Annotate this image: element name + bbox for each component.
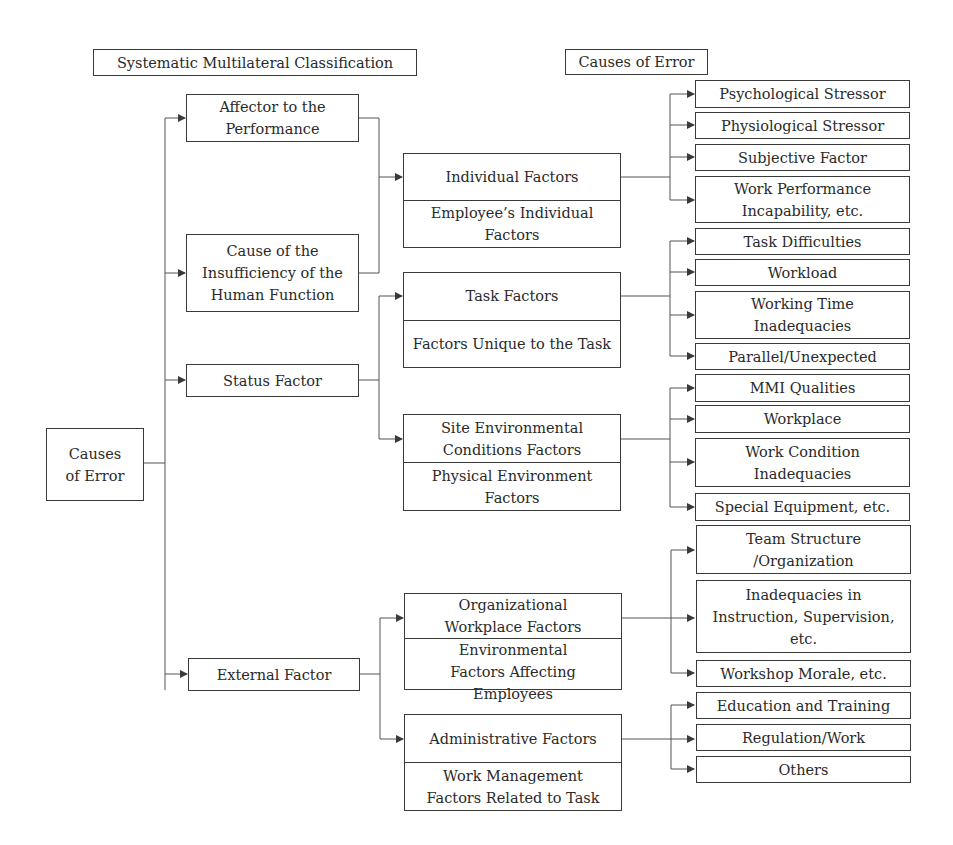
group-title: Site Environmental Conditions Factors bbox=[404, 415, 620, 462]
cause-special-equipment: Special Equipment, etc. bbox=[695, 493, 910, 521]
group-site-environmental: Site Environmental Conditions Factors Ph… bbox=[403, 414, 621, 511]
node-label: Cause of the Insufficiency of the Human … bbox=[202, 240, 343, 306]
group-subtitle: Factors Unique to the Task bbox=[404, 320, 620, 368]
node-status-factor: Status Factor bbox=[186, 364, 359, 397]
cause-psychological-stressor: Psychological Stressor bbox=[695, 80, 910, 108]
group-title: Individual Factors bbox=[404, 154, 620, 200]
group-subtitle: Environmental Factors Affecting Employee… bbox=[405, 638, 621, 705]
cause-label: Work Performance Incapability, etc. bbox=[734, 178, 871, 222]
cause-label: Education and Training bbox=[717, 695, 890, 717]
cause-label: Inadequacies in Instruction, Supervision… bbox=[712, 584, 894, 650]
node-label: Affector to the Performance bbox=[219, 96, 325, 140]
cause-label: Regulation/Work bbox=[742, 727, 865, 749]
node-label: External Factor bbox=[217, 664, 332, 686]
cause-workshop-morale: Workshop Morale, etc. bbox=[696, 660, 911, 687]
node-external-factor: External Factor bbox=[188, 658, 360, 691]
group-subtitle: Employee’s Individual Factors bbox=[404, 200, 620, 247]
cause-label: Workload bbox=[768, 262, 838, 284]
cause-label: Workplace bbox=[764, 408, 842, 430]
cause-regulation-work: Regulation/Work bbox=[696, 724, 911, 751]
header-right-label: Causes of Error bbox=[579, 51, 695, 73]
cause-workplace: Workplace bbox=[695, 405, 910, 433]
cause-task-difficulties: Task Difficulties bbox=[695, 228, 910, 255]
group-title: Administrative Factors bbox=[405, 715, 621, 762]
root-causes-of-error: Causes of Error bbox=[46, 428, 144, 501]
cause-label: Psychological Stressor bbox=[719, 83, 885, 105]
cause-label: Workshop Morale, etc. bbox=[720, 663, 887, 685]
cause-label: Others bbox=[778, 759, 828, 781]
group-title: Organizational Workplace Factors bbox=[405, 594, 621, 638]
header-left-label: Systematic Multilateral Classification bbox=[117, 52, 393, 74]
cause-inadequacies-instruction: Inadequacies in Instruction, Supervision… bbox=[696, 580, 911, 653]
group-task: Task Factors Factors Unique to the Task bbox=[403, 272, 621, 368]
cause-education-training: Education and Training bbox=[696, 692, 911, 719]
node-insufficiency: Cause of the Insufficiency of the Human … bbox=[186, 234, 359, 312]
cause-label: Special Equipment, etc. bbox=[715, 496, 890, 518]
cause-subjective-factor: Subjective Factor bbox=[695, 144, 910, 171]
root-label: Causes of Error bbox=[66, 443, 125, 487]
cause-label: Team Structure /Organization bbox=[746, 528, 861, 572]
group-title: Task Factors bbox=[404, 273, 620, 320]
cause-team-structure: Team Structure /Organization bbox=[696, 525, 911, 574]
cause-label: Work Condition Inadequacies bbox=[745, 441, 860, 485]
header-systematic-classification: Systematic Multilateral Classification bbox=[93, 49, 417, 76]
header-causes-of-error: Causes of Error bbox=[565, 49, 708, 75]
cause-working-time-inadequacies: Working Time Inadequacies bbox=[695, 291, 910, 339]
cause-physiological-stressor: Physiological Stressor bbox=[695, 112, 910, 139]
group-subtitle: Work Management Factors Related to Task bbox=[405, 762, 621, 810]
cause-label: MMI Qualities bbox=[750, 377, 856, 399]
cause-parallel-unexpected: Parallel/Unexpected bbox=[695, 343, 910, 370]
cause-label: Physiological Stressor bbox=[721, 115, 884, 137]
cause-label: Task Difficulties bbox=[744, 231, 862, 253]
group-subtitle: Physical Environment Factors bbox=[404, 462, 620, 510]
group-organizational: Organizational Workplace Factors Environ… bbox=[404, 593, 622, 690]
cause-label: Parallel/Unexpected bbox=[728, 346, 877, 368]
cause-workload: Workload bbox=[695, 259, 910, 286]
cause-label: Working Time Inadequacies bbox=[751, 293, 854, 337]
cause-work-condition-inadequacies: Work Condition Inadequacies bbox=[695, 438, 910, 487]
node-affector: Affector to the Performance bbox=[186, 94, 359, 142]
cause-mmi-qualities: MMI Qualities bbox=[695, 374, 910, 402]
group-individual: Individual Factors Employee’s Individual… bbox=[403, 153, 621, 248]
cause-work-performance-incapability: Work Performance Incapability, etc. bbox=[695, 176, 910, 223]
cause-others: Others bbox=[696, 756, 911, 783]
group-administrative: Administrative Factors Work Management F… bbox=[404, 714, 622, 811]
cause-label: Subjective Factor bbox=[738, 147, 867, 169]
node-label: Status Factor bbox=[223, 370, 322, 392]
